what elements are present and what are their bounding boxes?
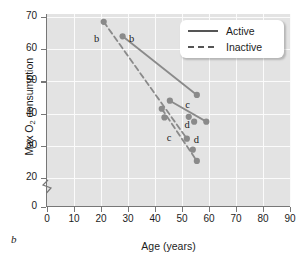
x-axis-tick-label: 50 — [170, 213, 194, 224]
data-point-active — [120, 33, 126, 39]
data-point-inactive — [101, 19, 107, 25]
x-axis-tick — [209, 207, 210, 212]
x-axis-tick-label: 60 — [197, 213, 221, 224]
x-axis-tick — [236, 207, 237, 212]
y-axis-tick-label: 40 — [13, 107, 37, 118]
x-axis-tick — [263, 207, 264, 212]
legend-swatch-solid-icon — [188, 30, 218, 32]
x-axis-tick-label: 20 — [89, 213, 113, 224]
chart-figure: Max O2 consumption Age (years) b Active … — [0, 0, 301, 262]
point-annotation: b — [94, 33, 99, 44]
y-axis-tick — [41, 81, 46, 82]
y-axis-tick-label: 20 — [13, 171, 37, 182]
data-point-inactive — [161, 114, 167, 120]
y-axis-tick — [41, 49, 46, 50]
data-point-active — [194, 92, 200, 98]
legend-label-active: Active — [226, 23, 255, 39]
y-axis-tick — [41, 114, 46, 115]
x-axis-tick — [290, 207, 291, 212]
legend: Active Inactive — [180, 20, 284, 58]
legend-item-active: Active — [188, 23, 282, 39]
data-point-inactive — [159, 106, 165, 112]
point-annotation: c — [167, 132, 172, 143]
data-point-active — [167, 98, 173, 104]
legend-item-inactive: Inactive — [188, 39, 282, 55]
series-line-inactive — [104, 22, 187, 139]
data-point-active — [203, 119, 209, 125]
x-axis-tick-label: 70 — [224, 213, 248, 224]
y-axis-tick — [41, 146, 46, 147]
x-axis-tick — [101, 207, 102, 212]
legend-swatch-dashed-icon — [188, 46, 218, 48]
x-axis-tick-label: 0 — [35, 213, 59, 224]
point-annotation: d — [184, 119, 189, 130]
y-axis-break-icon — [43, 180, 51, 193]
y-axis-tick — [41, 17, 46, 18]
x-axis-tick — [128, 207, 129, 212]
x-axis-tick-label: 80 — [251, 213, 275, 224]
x-axis-tick-label: 40 — [143, 213, 167, 224]
point-annotation: d — [194, 134, 199, 145]
data-point-active — [191, 119, 197, 125]
y-axis-tick — [41, 178, 46, 179]
x-axis-tick — [74, 207, 75, 212]
y-axis-tick — [41, 207, 46, 208]
point-annotation: b — [129, 33, 134, 44]
y-axis-tick-label: 0 — [13, 200, 37, 211]
y-axis-tick-label: 70 — [13, 10, 37, 21]
data-point-inactive — [194, 158, 200, 164]
x-axis-tick — [47, 207, 48, 212]
x-axis-tick-label: 10 — [62, 213, 86, 224]
data-point-inactive — [190, 147, 196, 153]
x-axis-tick — [155, 207, 156, 212]
y-axis-tick-label: 60 — [13, 42, 37, 53]
legend-label-inactive: Inactive — [226, 39, 262, 55]
y-axis-tick-label: 50 — [13, 74, 37, 85]
x-axis-tick-label: 30 — [116, 213, 140, 224]
x-axis-tick — [182, 207, 183, 212]
data-point-inactive — [184, 136, 190, 142]
y-axis-tick-label: 30 — [13, 139, 37, 150]
point-annotation: c — [185, 99, 190, 110]
x-axis-tick-label: 90 — [278, 213, 301, 224]
